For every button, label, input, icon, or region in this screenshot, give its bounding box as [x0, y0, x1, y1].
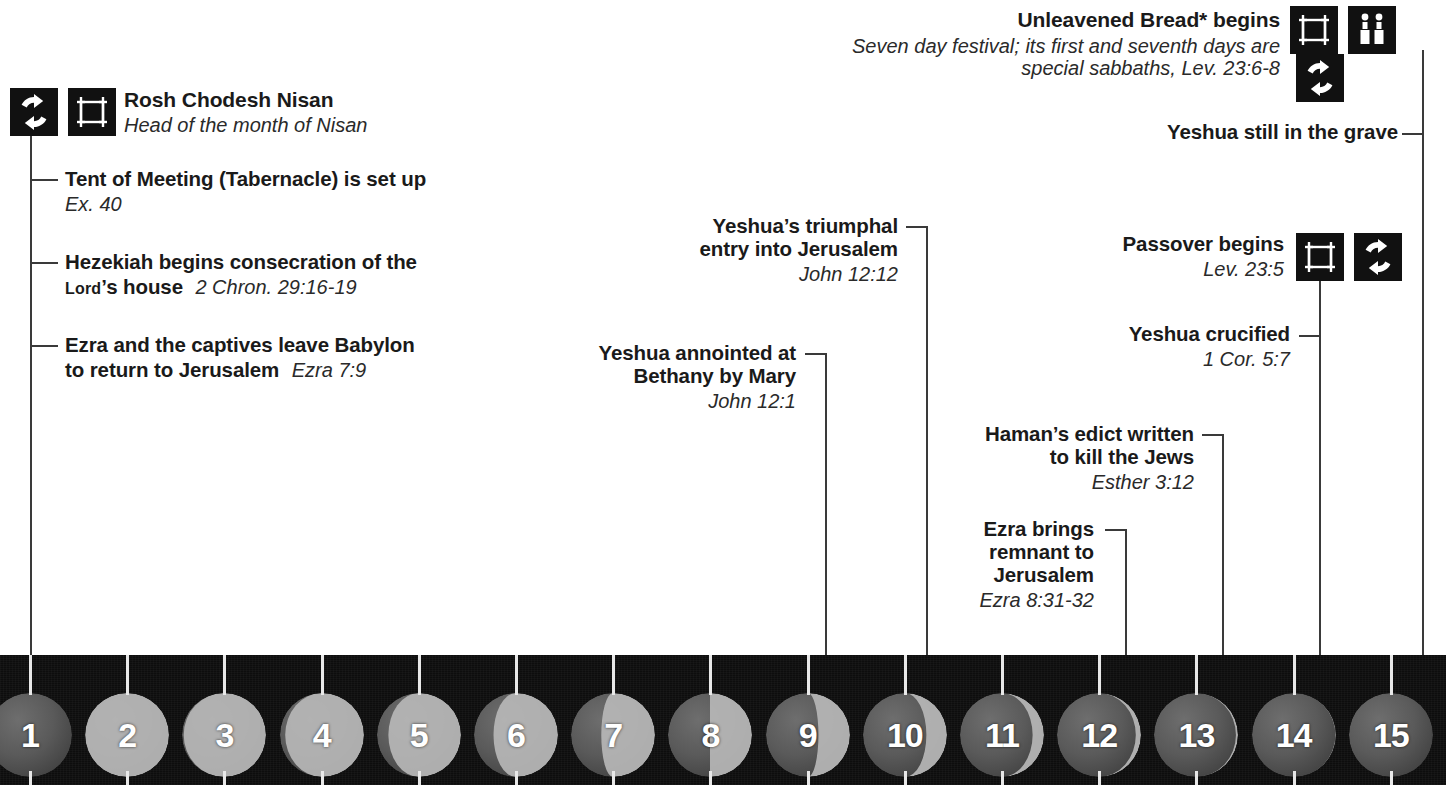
- moon-day-12: 12: [1057, 693, 1141, 777]
- cycle-icon: [1296, 54, 1344, 102]
- event-title-line-1: Ezra and the captives leave Babylon: [65, 334, 545, 357]
- moon-day-11: 11: [960, 693, 1044, 777]
- tick-yeshua-anointed: [805, 353, 827, 355]
- event-subtitle: Head of the month of Nisan: [124, 114, 544, 136]
- event-title-line-1: Haman’s edict written: [900, 423, 1194, 446]
- moon-day-number: 2: [85, 693, 169, 777]
- event-title-line-2: entry into Jerusalem: [580, 238, 898, 261]
- event-subtitle-line-2: special sabbaths, Lev. 23:6-8: [760, 57, 1280, 79]
- moon-day-number: 3: [182, 693, 266, 777]
- moon-day-number: 1: [0, 693, 72, 777]
- event-rosh-chodesh-nisan: Rosh Chodesh Nisan Head of the month of …: [124, 88, 544, 136]
- moon-day-7: 7: [571, 693, 655, 777]
- event-title-smallcaps: Lord: [65, 280, 101, 297]
- moon-day-number: 5: [377, 693, 461, 777]
- event-tent-of-meeting: Tent of Meeting (Tabernacle) is set up E…: [65, 168, 545, 215]
- tick-yeshua-crucified: [1299, 335, 1321, 337]
- moon-day-2: 2: [85, 693, 169, 777]
- event-reference: Lev. 23:5: [960, 258, 1284, 280]
- tick-triumphal-entry: [906, 226, 928, 228]
- icons-passover: [1296, 233, 1402, 281]
- tick-still-in-grave: [1402, 133, 1424, 135]
- cycle-icon: [1354, 233, 1402, 281]
- event-subtitle-line-1: Seven day festival; its first and sevent…: [760, 35, 1280, 57]
- day-tick-top-11: [1001, 655, 1004, 695]
- event-title: Passover begins: [960, 233, 1284, 256]
- icons-unleavened-bread: [1290, 6, 1446, 102]
- day-tick-top-12: [1098, 655, 1101, 695]
- day-tick-top-9: [807, 655, 810, 695]
- event-title: Tent of Meeting (Tabernacle) is set up: [65, 168, 545, 191]
- moon-day-number: 4: [280, 693, 364, 777]
- candles-icon: [1348, 6, 1396, 54]
- event-reference: Ex. 40: [65, 193, 545, 215]
- event-title-line-1: Hezekiah begins consecration of the: [65, 251, 535, 274]
- icons-rosh-chodesh: [10, 88, 116, 136]
- moon-day-13: 13: [1154, 693, 1238, 777]
- event-ezra-brings-remnant: Ezra brings remnant to Jerusalem Ezra 8:…: [880, 518, 1094, 611]
- moon-day-number: 6: [474, 693, 558, 777]
- event-title: Rosh Chodesh Nisan: [124, 88, 544, 112]
- event-reference: Ezra 7:9: [292, 359, 366, 381]
- event-reference: Esther 3:12: [900, 471, 1194, 493]
- moon-day-number: 13: [1154, 693, 1238, 777]
- moon-day-5: 5: [377, 693, 461, 777]
- moon-day-4: 4: [280, 693, 364, 777]
- moon-day-6: 6: [474, 693, 558, 777]
- moon-day-number: 9: [766, 693, 850, 777]
- event-title: Yeshua crucified: [960, 323, 1290, 346]
- day-tick-top-10: [904, 655, 907, 695]
- event-title-line-1: Yeshua annointed at: [480, 342, 796, 365]
- connector-line-day-12: [1125, 529, 1127, 658]
- moon-day-14: 14: [1252, 693, 1336, 777]
- event-unleavened-bread-begins: Unleavened Bread* begins Seven day festi…: [760, 8, 1280, 79]
- moon-phase-calendar-strip: 123456789101112131415: [0, 655, 1446, 785]
- moon-day-10: 10: [863, 693, 947, 777]
- tick-tent-of-meeting: [32, 179, 58, 181]
- event-yeshua-still-in-grave: Yeshua still in the grave: [1000, 121, 1398, 144]
- day-tick-top-14: [1293, 655, 1296, 695]
- event-hezekiah-consecration: Hezekiah begins consecration of the Lord…: [65, 251, 535, 299]
- event-title-line-2: remnant to: [880, 541, 1094, 564]
- tabernacle-icon: [1290, 6, 1338, 54]
- tick-ezra-remnant: [1105, 529, 1127, 531]
- moon-day-number: 11: [960, 693, 1044, 777]
- moon-day-number: 7: [571, 693, 655, 777]
- event-ezra-captives-leave-babylon: Ezra and the captives leave Babylon to r…: [65, 334, 545, 382]
- event-title-line-1: Ezra brings: [880, 518, 1094, 541]
- event-yeshua-crucified: Yeshua crucified 1 Cor. 5:7: [960, 323, 1290, 370]
- day-tick-top-6: [515, 655, 518, 695]
- day-tick-top-2: [126, 655, 129, 695]
- moon-day-1: 1: [0, 693, 72, 777]
- connector-line-day-15: [1422, 50, 1424, 658]
- day-tick-top-4: [321, 655, 324, 695]
- tick-hezekiah: [32, 262, 58, 264]
- connector-line-day-9: [825, 353, 827, 658]
- event-title-line-2: ’s house: [101, 275, 183, 298]
- day-tick-top-3: [223, 655, 226, 695]
- day-tick-top-1: [29, 655, 32, 695]
- event-reference: 2 Chron. 29:16-19: [195, 276, 356, 298]
- event-reference: John 12:12: [580, 263, 898, 285]
- event-reference: 1 Cor. 5:7: [960, 348, 1290, 370]
- connector-line-day-1: [30, 128, 32, 658]
- event-passover-begins: Passover begins Lev. 23:5: [960, 233, 1284, 280]
- moon-day-3: 3: [182, 693, 266, 777]
- event-title-line-1: Yeshua’s triumphal: [580, 215, 898, 238]
- moon-day-number: 10: [863, 693, 947, 777]
- event-reference: Ezra 8:31-32: [880, 589, 1094, 611]
- event-hamans-edict: Haman’s edict written to kill the Jews E…: [900, 423, 1194, 493]
- calendar-infographic: Unleavened Bread* begins Seven day festi…: [0, 0, 1446, 785]
- day-tick-top-5: [418, 655, 421, 695]
- connector-line-day-13: [1222, 434, 1224, 658]
- moon-day-number: 12: [1057, 693, 1141, 777]
- day-tick-top-13: [1195, 655, 1198, 695]
- moon-day-number: 15: [1349, 693, 1433, 777]
- event-reference: John 12:1: [480, 390, 796, 412]
- day-tick-top-8: [709, 655, 712, 695]
- tick-hamans-edict: [1202, 434, 1224, 436]
- event-yeshua-triumphal-entry: Yeshua’s triumphal entry into Jerusalem …: [580, 215, 898, 285]
- moon-day-15: 15: [1349, 693, 1433, 777]
- tabernacle-icon: [68, 88, 116, 136]
- day-tick-top-15: [1390, 655, 1393, 695]
